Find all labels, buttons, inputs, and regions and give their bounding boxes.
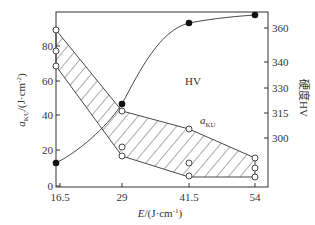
- svg-text:40: 40: [42, 109, 54, 121]
- left-axis-labels: 0 20 40 60 80: [42, 40, 54, 192]
- svg-text:300: 300: [272, 132, 289, 144]
- svg-text:340: 340: [272, 56, 289, 68]
- svg-text:330: 330: [272, 82, 289, 94]
- svg-text:29: 29: [117, 191, 129, 203]
- svg-text:20: 20: [42, 144, 54, 156]
- x-axis-ticks: [60, 183, 255, 187]
- x-axis-title: E/(J·cm-1): [137, 207, 183, 220]
- chart-svg: 0 20 40 60 80 360 340 330 315 300 16.5 2…: [0, 0, 315, 225]
- aku-band: [56, 30, 255, 177]
- aku-annotation: aKU: [200, 114, 216, 129]
- right-axis-labels: 360 340 330 315 300: [272, 22, 289, 144]
- svg-text:54: 54: [250, 191, 262, 203]
- right-axis-title: 硬度HV: [298, 79, 311, 117]
- svg-text:315: 315: [272, 107, 289, 119]
- svg-text:41.5: 41.5: [179, 191, 199, 203]
- svg-text:60: 60: [42, 75, 54, 87]
- svg-text:360: 360: [272, 22, 289, 34]
- right-axis-ticks: [264, 28, 268, 138]
- hv-annotation: HV: [185, 75, 201, 87]
- left-axis-title: aKU/(J·cm-2): [15, 73, 30, 127]
- svg-text:80: 80: [42, 40, 54, 52]
- x-axis-labels: 16.5 29 41.5 54: [50, 191, 261, 203]
- svg-text:16.5: 16.5: [50, 191, 70, 203]
